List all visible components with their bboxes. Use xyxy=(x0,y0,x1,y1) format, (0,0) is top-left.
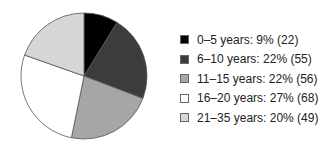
legend-item: 11–15 years: 22% (56) xyxy=(180,69,318,89)
legend-label: 11–15 years: 22% (56) xyxy=(197,72,318,86)
legend-label: 6–10 years: 22% (55) xyxy=(197,52,312,66)
legend-swatch xyxy=(180,94,189,103)
legend: 0–5 years: 9% (22) 6–10 years: 22% (55) … xyxy=(180,30,318,128)
legend-item: 6–10 years: 22% (55) xyxy=(180,50,318,70)
pie-chart xyxy=(0,0,170,146)
legend-item: 16–20 years: 27% (68) xyxy=(180,89,318,109)
legend-swatch xyxy=(180,55,189,64)
legend-label: 0–5 years: 9% (22) xyxy=(197,33,298,47)
legend-swatch xyxy=(180,113,189,122)
legend-swatch xyxy=(180,35,189,44)
legend-item: 21–35 years: 20% (49) xyxy=(180,108,318,128)
legend-item: 0–5 years: 9% (22) xyxy=(180,30,318,50)
legend-label: 21–35 years: 20% (49) xyxy=(197,111,318,125)
legend-label: 16–20 years: 27% (68) xyxy=(197,91,318,105)
legend-swatch xyxy=(180,74,189,83)
